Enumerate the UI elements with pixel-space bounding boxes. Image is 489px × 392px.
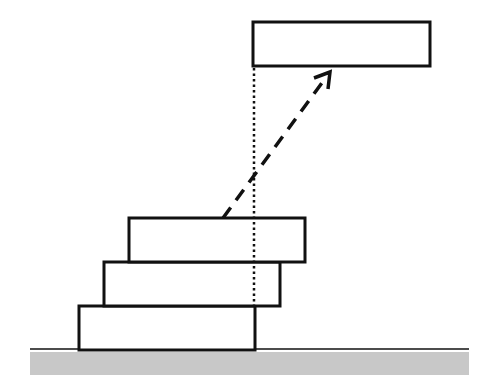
block-1 xyxy=(79,306,255,350)
block-3 xyxy=(129,218,305,262)
block-moved xyxy=(253,22,430,66)
dashed-arrow-icon xyxy=(223,72,330,218)
stacked-blocks-diagram xyxy=(0,0,489,392)
ground-band xyxy=(30,352,469,375)
